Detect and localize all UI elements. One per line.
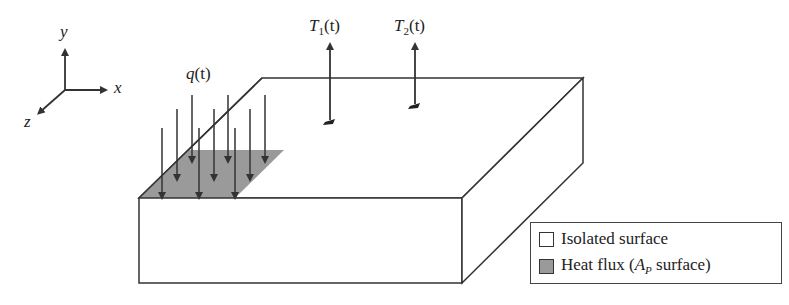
z-axis-label: z	[24, 112, 31, 132]
legend: Isolated surface Heat flux (AP surface)	[530, 222, 782, 284]
y-axis-label: y	[60, 22, 68, 42]
legend-label-isolated: Isolated surface	[561, 229, 668, 249]
slab-front-face	[139, 198, 462, 283]
heat-flux-swatch-icon	[539, 259, 554, 274]
legend-label-heat-flux: Heat flux (AP surface)	[561, 255, 711, 276]
coordinate-axes-icon	[40, 52, 104, 112]
legend-item-heat-flux: Heat flux (AP surface)	[539, 254, 711, 278]
x-axis-label: x	[114, 78, 122, 98]
isolated-surface-swatch-icon	[539, 232, 554, 247]
sensor-2-label: T2(t)	[394, 16, 425, 37]
heat-flux-label: q(t)	[186, 64, 211, 84]
legend-item-isolated: Isolated surface	[539, 227, 668, 251]
sensor-1-label: T1(t)	[309, 16, 340, 37]
